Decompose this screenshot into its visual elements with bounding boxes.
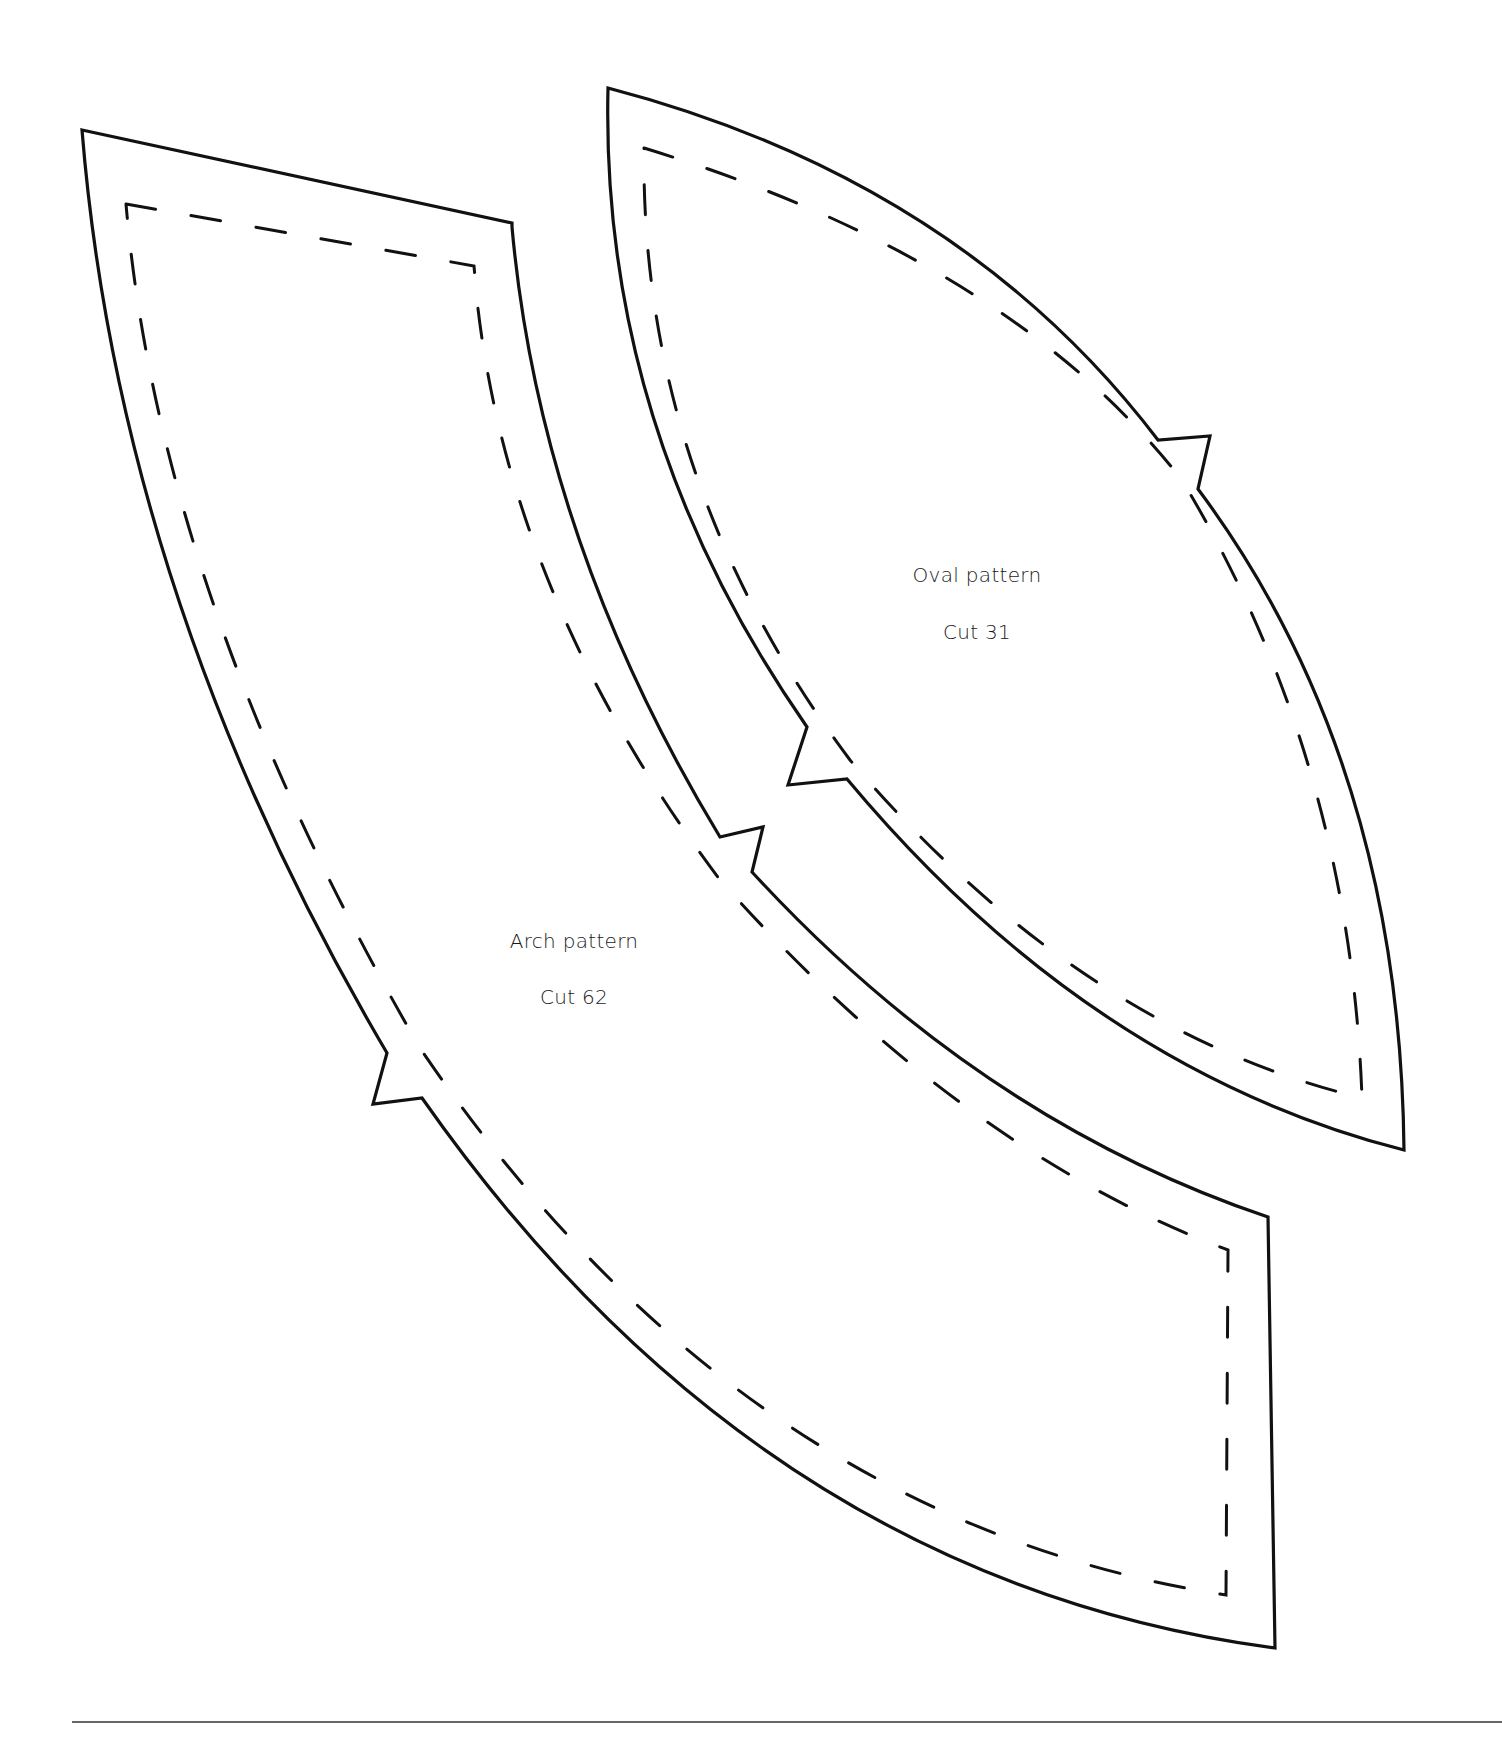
arch-pattern [82,130,1275,1648]
oval-pattern-cut-count: Cut 31 [943,620,1011,644]
oval-cut-outline [608,88,1404,1150]
footer-divider [72,1721,1502,1723]
arch-pattern-cut-count: Cut 62 [540,985,608,1009]
oval-pattern [608,88,1404,1150]
arch-seam-line [126,204,1228,1595]
oval-pattern-title: Oval pattern [913,563,1042,587]
arch-pattern-title: Arch pattern [510,929,639,953]
arch-cut-outline [82,130,1275,1648]
